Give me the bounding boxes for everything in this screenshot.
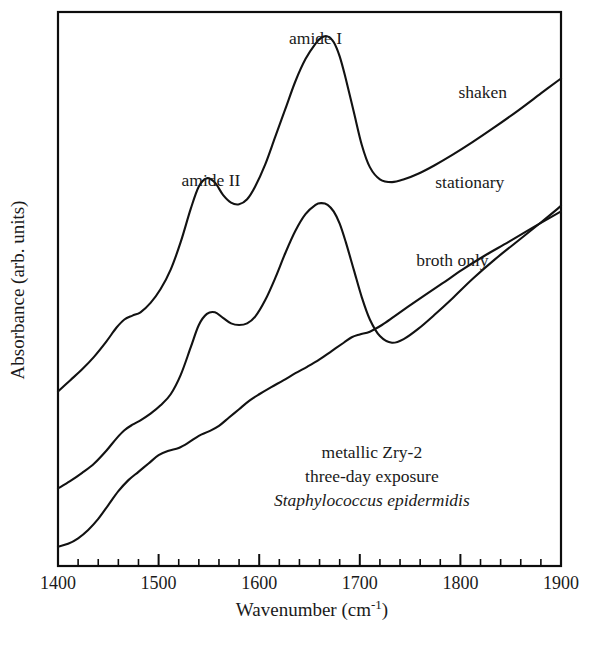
x-tick-label: 1800 [442, 573, 478, 593]
x-axis-title: Wavenumber (cm-1) [236, 597, 388, 621]
spectra-chart: 140015001600170018001900 amide Iamide II… [0, 0, 595, 648]
annotation-line: metallic Zry-2 [322, 442, 423, 462]
x-tick-label: 1400 [40, 573, 76, 593]
x-tick-label: 1700 [342, 573, 378, 593]
curve-label-shaken: shaken [458, 82, 507, 102]
x-tick-label: 1600 [241, 573, 277, 593]
y-axis-title: Absorbance (arb. units) [7, 201, 29, 380]
x-tick-label: 1900 [543, 573, 579, 593]
x-tick-label: 1500 [141, 573, 177, 593]
curve-label-broth-only: broth only [416, 250, 489, 270]
figure-root: 140015001600170018001900 amide Iamide II… [0, 0, 595, 648]
curve-label-stationary: stationary [435, 172, 504, 192]
annotation-line: three-day exposure [305, 466, 439, 486]
annotation-line: Staphylococcus epidermidis [274, 490, 470, 510]
peak-label-amide-i: amide I [289, 28, 342, 48]
peak-label-amide-ii: amide II [182, 170, 241, 190]
